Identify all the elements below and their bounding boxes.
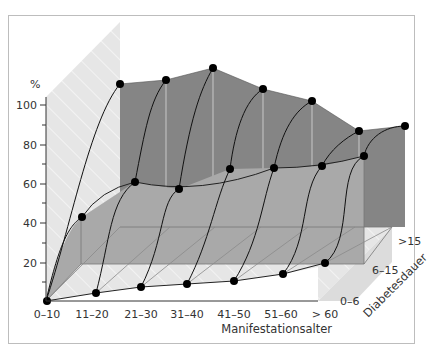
x-tick-4: 41–50 bbox=[217, 308, 251, 321]
y-tick-80: 80 bbox=[23, 139, 37, 152]
x-tick-5: 51–60 bbox=[264, 308, 298, 321]
x-tick-1: 11–20 bbox=[75, 308, 109, 321]
y-tick-100: 100 bbox=[16, 99, 37, 112]
z-tick-2: >15 bbox=[398, 235, 421, 248]
x-tick-3: 31–40 bbox=[170, 308, 204, 321]
x-axis-title: Manifestationsalter bbox=[221, 322, 332, 336]
y-tick-40: 40 bbox=[23, 217, 37, 230]
z-tick-0: 0–6 bbox=[340, 295, 360, 308]
x-tick-2: 21–30 bbox=[124, 308, 158, 321]
x-tick-6: > 60 bbox=[312, 308, 339, 321]
y-tick-20: 20 bbox=[23, 257, 37, 270]
y-unit-label: % bbox=[30, 78, 40, 91]
x-tick-0: 0–10 bbox=[34, 308, 61, 321]
chart-3d-surface: % 100 80 60 40 20 0–10 11–20 21–30 31–40… bbox=[0, 0, 432, 354]
y-tick-60: 60 bbox=[23, 178, 37, 191]
